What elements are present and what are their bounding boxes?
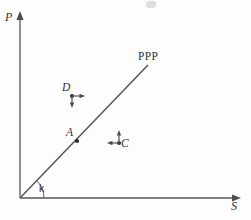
y-axis-label: P (5, 11, 12, 23)
ppp-line (21, 65, 149, 198)
x-axis-S (20, 194, 241, 201)
point-a-label: A (66, 127, 73, 139)
ppp-diagram-figure: P S PPP A C D k (0, 0, 251, 220)
x-axis-label: S (231, 200, 237, 212)
point-c-marker (107, 130, 121, 145)
point-d-marker (70, 94, 85, 108)
point-d-label: D (62, 82, 70, 94)
ppp-line-label: PPP (138, 51, 158, 63)
y-axis-P (16, 11, 23, 198)
point-c-label: C (121, 138, 129, 150)
point-a-marker (75, 139, 79, 143)
angle-k-label: k (39, 183, 44, 194)
diagram-canvas (0, 0, 251, 220)
